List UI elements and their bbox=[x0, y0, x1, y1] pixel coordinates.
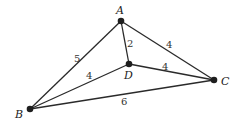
weight-a-b: 5 bbox=[74, 53, 80, 64]
node-b bbox=[27, 106, 34, 113]
label-c: C bbox=[221, 75, 230, 88]
weight-d-b: 4 bbox=[86, 70, 92, 81]
node-d bbox=[126, 61, 133, 68]
weight-a-d: 2 bbox=[127, 38, 133, 49]
node-a bbox=[118, 18, 125, 25]
label-b: B bbox=[14, 108, 23, 121]
edge-a-b bbox=[30, 21, 121, 109]
weight-d-c: 4 bbox=[162, 61, 168, 72]
label-a: A bbox=[115, 4, 124, 17]
edge-d-b bbox=[30, 64, 129, 109]
weight-b-c: 6 bbox=[121, 96, 127, 107]
label-d: D bbox=[123, 69, 133, 82]
node-c bbox=[211, 77, 218, 84]
weighted-graph: 5 2 4 4 4 6 A B C D bbox=[0, 0, 239, 126]
weight-a-c: 4 bbox=[166, 39, 172, 50]
